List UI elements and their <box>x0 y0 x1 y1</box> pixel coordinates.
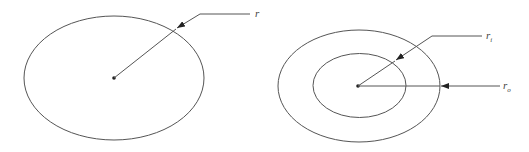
radius-line-r <box>114 29 176 78</box>
hollow-circle-figure: ri ro <box>278 29 511 142</box>
radius-line-inner <box>358 61 395 86</box>
solid-circle-figure: r <box>24 7 260 140</box>
label-r-outer: ro <box>503 79 511 94</box>
label-r-inner: ri <box>486 29 492 44</box>
leader-arrow-r <box>177 14 250 28</box>
label-r: r <box>255 7 260 19</box>
diagram-canvas: r ri ro <box>0 0 529 152</box>
leader-arrow-inner <box>396 36 482 60</box>
